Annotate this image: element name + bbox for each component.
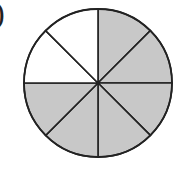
center-point (96, 81, 100, 85)
fraction-circle (0, 0, 177, 169)
